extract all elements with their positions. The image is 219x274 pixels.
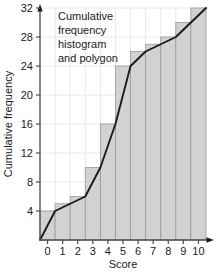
x-tick-label: 0 bbox=[44, 245, 50, 257]
y-tick-label: 24 bbox=[21, 60, 33, 72]
x-tick-label: 10 bbox=[192, 245, 204, 257]
histogram-bar bbox=[176, 23, 191, 241]
chart-canvas: 48121620242832 012345678910 Score Cumula… bbox=[0, 0, 219, 274]
histogram-bar bbox=[131, 52, 146, 241]
x-tick-label: 2 bbox=[75, 245, 81, 257]
y-tick-label: 4 bbox=[27, 205, 33, 217]
y-tick-label: 32 bbox=[21, 2, 33, 14]
y-tick-label: 8 bbox=[27, 176, 33, 188]
x-tick-label: 1 bbox=[60, 245, 66, 257]
x-axis-ticks: 012345678910 bbox=[44, 240, 204, 257]
histogram-bar bbox=[100, 124, 115, 240]
x-tick-label: 3 bbox=[90, 245, 96, 257]
x-tick-label: 5 bbox=[120, 245, 126, 257]
histogram-bar bbox=[85, 168, 100, 241]
x-tick-label: 6 bbox=[135, 245, 141, 257]
y-tick-label: 20 bbox=[21, 89, 33, 101]
x-tick-label: 8 bbox=[165, 245, 171, 257]
histogram-bar bbox=[161, 37, 176, 240]
annotation-line-3: histogram bbox=[58, 38, 106, 50]
x-tick-label: 7 bbox=[150, 245, 156, 257]
y-tick-label: 28 bbox=[21, 31, 33, 43]
histogram-bar bbox=[191, 8, 206, 240]
x-axis-arrowhead bbox=[207, 237, 215, 242]
x-tick-label: 4 bbox=[105, 245, 111, 257]
y-axis-title: Cumulative frequency bbox=[2, 70, 14, 177]
annotation-line-2: frequency bbox=[58, 24, 107, 36]
cumulative-frequency-chart: 48121620242832 012345678910 Score Cumula… bbox=[0, 0, 219, 274]
x-axis-title: Score bbox=[109, 258, 138, 270]
y-axis-ticks: 48121620242832 bbox=[21, 2, 40, 217]
y-tick-label: 16 bbox=[21, 118, 33, 130]
y-tick-label: 12 bbox=[21, 147, 33, 159]
annotation-line-4: and polygon bbox=[58, 52, 118, 64]
histogram-bar bbox=[146, 44, 161, 240]
annotation-line-1: Cumulative bbox=[58, 10, 113, 22]
x-tick-label: 9 bbox=[180, 245, 186, 257]
